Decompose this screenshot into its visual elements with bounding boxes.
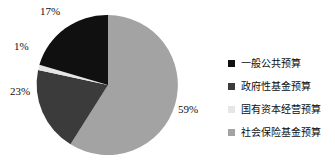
- slice-label-state-asset: 1%: [14, 41, 29, 52]
- chart-legend: 一般公共预算 政府性基金预算 国有资本经营预算 社会保险基金预算: [228, 52, 335, 144]
- legend-label: 国有资本经营预算: [241, 104, 321, 115]
- legend-label: 一般公共预算: [241, 58, 301, 69]
- slice-label-gov-fund: 23%: [10, 86, 30, 97]
- legend-label: 政府性基金预算: [241, 81, 311, 92]
- legend-swatch-icon: [228, 83, 235, 90]
- pie-plot-area: 17% 1% 23% 59%: [0, 0, 215, 161]
- legend-swatch-icon: [228, 106, 235, 113]
- legend-item-general-public[interactable]: 一般公共预算: [228, 52, 335, 75]
- legend-item-state-asset[interactable]: 国有资本经营预算: [228, 98, 335, 121]
- legend-swatch-icon: [228, 60, 235, 67]
- legend-item-gov-fund[interactable]: 政府性基金预算: [228, 75, 335, 98]
- pie-svg: [0, 0, 215, 161]
- legend-swatch-icon: [228, 129, 235, 136]
- legend-label: 社会保险基金预算: [241, 127, 321, 138]
- slice-label-general-public: 17%: [40, 6, 60, 17]
- pie-chart: 17% 1% 23% 59% 一般公共预算 政府性基金预算 国有资本经营预算 社…: [0, 0, 335, 161]
- slice-label-social-insurance: 59%: [178, 104, 198, 115]
- legend-item-social-insurance[interactable]: 社会保险基金预算: [228, 121, 335, 144]
